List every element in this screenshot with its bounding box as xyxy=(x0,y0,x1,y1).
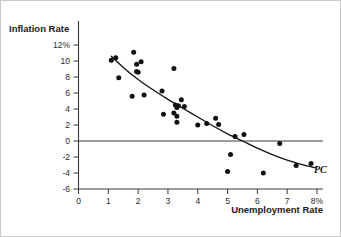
y-tick-label: -2 xyxy=(62,152,70,162)
data-point xyxy=(116,75,121,80)
y-axis-ticks: 12%1086420-2-4-6 xyxy=(53,40,79,194)
x-tick-label: 5 xyxy=(225,196,230,206)
data-point xyxy=(131,50,136,55)
y-tick-label: 0 xyxy=(65,136,70,146)
data-point xyxy=(174,114,179,119)
data-point xyxy=(171,66,176,71)
pc-curve-label: PC xyxy=(314,164,327,175)
x-axis-title: Unemployment Rate xyxy=(231,204,323,215)
figure-frame: 12%1086420-2-4-6 012345678% Inflation Ra… xyxy=(0,0,341,237)
data-point xyxy=(130,94,135,99)
data-point xyxy=(195,123,200,128)
y-tick-label: -4 xyxy=(62,168,70,178)
chart-axes xyxy=(79,21,324,189)
data-point xyxy=(241,132,246,137)
y-tick-label: 10 xyxy=(61,56,71,66)
y-axis-title: Inflation Rate xyxy=(9,23,69,34)
data-point xyxy=(213,116,218,121)
y-tick-label: 12% xyxy=(53,40,70,50)
data-point xyxy=(136,70,141,75)
data-point xyxy=(228,152,233,157)
phillips-curve-chart: 12%1086420-2-4-6 012345678% Inflation Ra… xyxy=(1,1,341,237)
y-tick-label: 6 xyxy=(65,88,70,98)
data-point xyxy=(139,59,144,64)
x-tick-label: 2 xyxy=(136,196,141,206)
data-point xyxy=(142,93,147,98)
data-point xyxy=(225,169,230,174)
x-tick-label: 3 xyxy=(166,196,171,206)
x-tick-label: 0 xyxy=(76,196,81,206)
y-tick-label: 8 xyxy=(65,72,70,82)
x-tick-label: 4 xyxy=(195,196,200,206)
y-tick-label: 2 xyxy=(65,120,70,130)
phillips-curve-line xyxy=(111,56,315,168)
data-point xyxy=(216,122,221,127)
y-tick-label: 4 xyxy=(65,104,70,114)
data-point xyxy=(277,141,282,146)
y-tick-label: -6 xyxy=(62,184,70,194)
data-point xyxy=(159,89,164,94)
data-point xyxy=(134,62,139,67)
data-point xyxy=(309,161,314,166)
data-point xyxy=(174,120,179,125)
x-tick-label: 1 xyxy=(106,196,111,206)
data-point xyxy=(161,112,166,117)
scatter-point-group xyxy=(109,50,314,176)
data-point xyxy=(261,171,266,176)
data-point xyxy=(179,97,184,102)
